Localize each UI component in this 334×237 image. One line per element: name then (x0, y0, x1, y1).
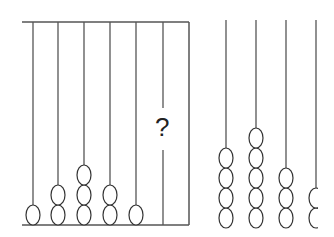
bead (249, 168, 263, 188)
bead (279, 188, 293, 208)
bead (77, 185, 91, 205)
question-mark-label: ? (155, 114, 169, 140)
bead (309, 208, 323, 228)
bead (309, 188, 323, 208)
bead (249, 208, 263, 228)
bead (249, 148, 263, 168)
bead (279, 168, 293, 188)
bead (129, 205, 143, 225)
bead (249, 128, 263, 148)
bead (51, 185, 65, 205)
bead (219, 168, 233, 188)
bead (249, 188, 263, 208)
right-abacus (219, 20, 323, 228)
bead (219, 148, 233, 168)
bead (279, 208, 293, 228)
bead (103, 185, 117, 205)
bead (77, 165, 91, 185)
bead (103, 205, 117, 225)
bead (26, 205, 40, 225)
bead (219, 208, 233, 228)
bead (219, 188, 233, 208)
bead (51, 205, 65, 225)
bead (77, 205, 91, 225)
